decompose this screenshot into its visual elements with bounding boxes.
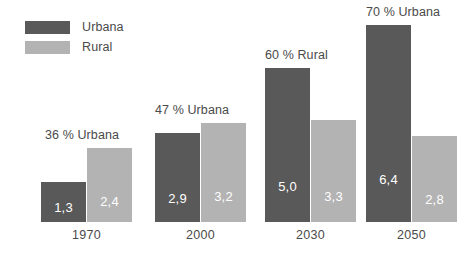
bar-rural-2050: 2,8: [412, 136, 457, 222]
bar-group-2030: 60 % Rural 5,0 3,3: [265, 0, 356, 222]
bar-value-rural-2030: 3,3: [311, 189, 356, 204]
bar-urbana-2000: 2,9: [155, 133, 200, 222]
group-annotation-1970: 36 % Urbana: [45, 128, 119, 142]
bar-rural-2000: 3,2: [201, 123, 246, 222]
bar-value-rural-2050: 2,8: [412, 192, 457, 207]
x-tick-label-2000: 2000: [155, 228, 246, 242]
bar-rural-1970: 2,4: [87, 148, 132, 222]
bar-value-rural-2000: 3,2: [201, 189, 246, 204]
x-tick-label-2050: 2050: [366, 228, 457, 242]
group-annotation-2000: 47 % Urbana: [155, 103, 229, 117]
plot-area: 36 % Urbana 1,3 2,4 47 % Urbana 2,9 3,2 …: [0, 0, 470, 222]
bar-chart: Urbana Rural 36 % Urbana 1,3 2,4 47 % Ur…: [0, 0, 470, 258]
bar-group-2050: 70 % Urbana 6,4 2,8: [366, 0, 457, 222]
x-tick-label-1970: 1970: [41, 228, 132, 242]
bar-value-urbana-2030: 5,0: [265, 179, 310, 194]
bar-group-2000: 47 % Urbana 2,9 3,2: [155, 0, 246, 222]
bar-rural-2030: 3,3: [311, 120, 356, 222]
bar-value-rural-1970: 2,4: [87, 194, 132, 209]
bar-urbana-2050: 6,4: [366, 25, 411, 222]
bar-group-1970: 36 % Urbana 1,3 2,4: [41, 0, 132, 222]
bar-urbana-1970: 1,3: [41, 182, 86, 222]
group-annotation-2030: 60 % Rural: [265, 48, 328, 62]
group-annotation-2050: 70 % Urbana: [366, 5, 440, 19]
bar-value-urbana-1970: 1,3: [41, 200, 86, 215]
x-tick-label-2030: 2030: [265, 228, 356, 242]
bar-urbana-2030: 5,0: [265, 68, 310, 222]
bar-value-urbana-2050: 6,4: [366, 172, 411, 187]
bar-value-urbana-2000: 2,9: [155, 191, 200, 206]
